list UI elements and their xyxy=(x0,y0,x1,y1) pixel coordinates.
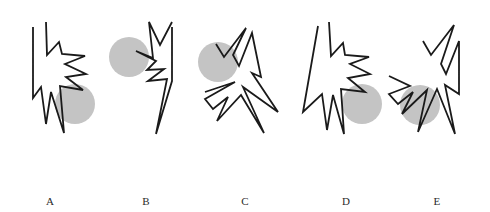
figure-label-c: C xyxy=(241,195,249,207)
zigzag-star-b xyxy=(136,22,172,134)
figure-item-c: C xyxy=(198,28,278,207)
figure-label-e: E xyxy=(433,195,440,207)
figure-label-d: D xyxy=(342,195,350,207)
figure-label-b: B xyxy=(142,195,150,207)
figure-item-b: B xyxy=(109,22,172,207)
zigzag-star-e xyxy=(389,25,459,134)
figure-label-a: A xyxy=(46,195,54,207)
stimulus-figure-panel: ABCDE xyxy=(0,0,490,212)
figure-item-d: D xyxy=(303,22,382,207)
figure-item-a: A xyxy=(33,22,95,207)
figure-item-e: E xyxy=(389,25,459,207)
figure-canvas: ABCDE xyxy=(0,0,490,212)
gray-circle-b xyxy=(109,37,149,77)
figure-items-group: ABCDE xyxy=(33,22,459,207)
